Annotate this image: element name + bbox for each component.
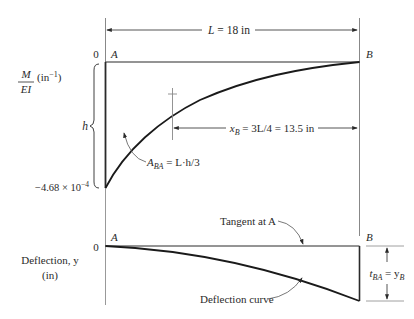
deflection-ylabel-line1: Deflection, y (21, 254, 79, 266)
moment-ylabel-denominator: EI (20, 83, 33, 95)
moment-point-b-label: B (366, 48, 373, 60)
h-label: h (82, 120, 88, 132)
deflection-curve-label: Deflection curve (200, 293, 274, 305)
beam-deflection-diagram: L = 18 in 0 A B M EI (in−1) h −4.68 × 10… (0, 0, 414, 319)
tangent-leader-arrow (278, 221, 303, 244)
moment-zero-label: 0 (93, 48, 99, 60)
tba-label: tBA = yB (370, 267, 405, 282)
deflection-point-b-label: B (366, 231, 373, 243)
moment-ylabel-numerator: M (20, 68, 31, 80)
moment-min-value: −4.68 × 10−4 (35, 180, 89, 193)
length-label: L = 18 in (207, 24, 250, 36)
xb-label: xB = 3L/4 = 13.5 in (229, 122, 315, 137)
moment-point-a-label: A (110, 48, 118, 60)
tangent-label: Tangent at A (220, 215, 276, 227)
deflection-ylabel-line2: (in) (42, 269, 58, 282)
deflection-zero-label: 0 (93, 241, 99, 253)
deflection-point-a-label: A (110, 231, 118, 243)
moment-ylabel-units: (in−1) (37, 70, 62, 84)
area-label: ABA = L·h/3 (146, 156, 200, 171)
h-brace (90, 64, 99, 188)
